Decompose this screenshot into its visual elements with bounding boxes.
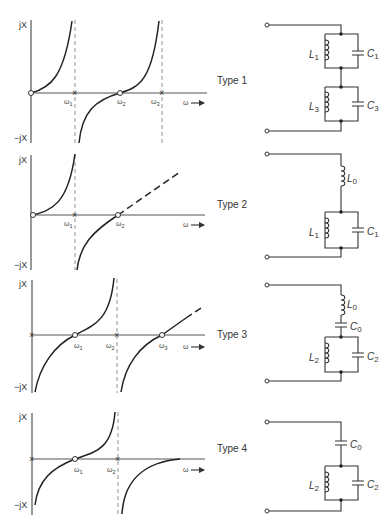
reactance-curve [77, 215, 118, 270]
l2-label: L2 [309, 352, 320, 365]
c3-label: C3 [367, 100, 379, 113]
circuit-type-3: L0 C0 L2 C2 [265, 283, 379, 383]
l2-label: L2 [309, 480, 320, 493]
y-pos-label: jX [18, 412, 27, 422]
pole-marker: × [29, 330, 34, 340]
pole-marker: × [72, 88, 77, 98]
pole-marker: × [29, 454, 34, 464]
zero-marker [118, 91, 123, 96]
zero-marker [73, 457, 78, 462]
omega-1-label: ω1 [64, 98, 73, 107]
reactance-curve [162, 318, 186, 335]
y-pos-label: jX [18, 279, 27, 289]
terminal-icon [265, 420, 269, 424]
inductor-l1-icon [325, 218, 329, 238]
reactance-curve [31, 21, 72, 93]
l0-label: L0 [347, 173, 358, 186]
type-2-label: Type 2 [217, 199, 247, 210]
type-3-label: Type 3 [217, 329, 247, 340]
circuit-type-4: C0 L2 C2 [265, 420, 379, 513]
capacitor-c2-icon [352, 353, 364, 357]
plot-type-2: jX −jX ω × ω1 ω2 Type 2 [14, 154, 247, 270]
type-4-label: Type 4 [217, 443, 247, 454]
y-pos-label: jX [18, 155, 27, 165]
c2-label: C2 [367, 479, 379, 492]
terminal-icon [265, 129, 269, 133]
omega-2-label: ω2 [117, 98, 126, 107]
omega-2-label: ω2 [116, 220, 125, 229]
c2-label: C2 [367, 351, 379, 364]
inductor-l2-icon [325, 472, 329, 492]
c0-label: C0 [350, 321, 362, 334]
capacitor-c1-icon [352, 51, 364, 55]
reactance-curve [121, 335, 162, 392]
capacitor-c0-icon [335, 323, 347, 327]
plot-type-4: jX −jX ω × × ω1 ω2 Type 4 [14, 412, 247, 516]
terminal-icon [265, 283, 269, 287]
reactance-curve [122, 459, 180, 514]
inductor-l2-icon [325, 343, 329, 363]
omega-3-label: ω3 [151, 98, 160, 107]
reactance-figure: jX −jX ω × × ω1 ω2 ω3 Type 1 jX −jX ω × … [0, 0, 389, 529]
plot-type-3: jX −jX ω × × ω1 ω2 ω3 Type 3 [14, 278, 247, 393]
pole-marker: × [159, 88, 164, 98]
circuit-type-2: L0 L1 C1 [265, 152, 379, 259]
c1-label: C1 [367, 48, 379, 61]
omega-2-label: ω2 [107, 466, 116, 475]
circuit-type-1: L1 C1 L3 C3 [265, 23, 379, 133]
asymptote-line [186, 306, 204, 318]
omega-axis-label: ω [183, 343, 189, 350]
y-pos-label: jX [18, 20, 27, 30]
pole-marker: × [115, 454, 120, 464]
reactance-curve [33, 154, 75, 215]
zero-marker [73, 333, 78, 338]
omega-1-label: ω1 [64, 220, 73, 229]
l3-label: L3 [309, 101, 320, 114]
pole-marker: × [72, 210, 77, 220]
c1-label: C1 [367, 226, 379, 239]
l1-label: L1 [309, 227, 320, 240]
y-neg-label: −jX [14, 260, 27, 270]
terminal-icon [265, 379, 269, 383]
capacitor-c1-icon [352, 228, 364, 232]
omega-axis-label: ω [183, 221, 189, 228]
terminal-icon [265, 152, 269, 156]
omega-3-label: ω3 [159, 342, 168, 351]
zero-marker [29, 91, 34, 96]
asymptote-line [118, 172, 180, 215]
omega-1-label: ω1 [74, 466, 83, 475]
omega-1-label: ω1 [74, 342, 83, 351]
reactance-curve [79, 21, 159, 143]
terminal-icon [265, 23, 269, 27]
c0-label: C0 [350, 439, 362, 452]
omega-axis-label: ω [183, 466, 189, 473]
zero-marker [160, 333, 165, 338]
omega-2-label: ω2 [106, 342, 115, 351]
inductor-l1-icon [325, 40, 329, 60]
y-neg-label: −jX [14, 382, 27, 392]
inductor-l0-icon [341, 295, 345, 315]
zero-marker [31, 213, 36, 218]
terminal-icon [265, 255, 269, 259]
zero-marker [116, 213, 121, 218]
inductor-l0-icon [341, 166, 345, 186]
capacitor-c2-icon [352, 481, 364, 485]
l1-label: L1 [309, 49, 320, 62]
omega-axis-label: ω [183, 99, 189, 106]
capacitor-c3-icon [352, 102, 364, 106]
terminal-icon [265, 509, 269, 513]
type-1-label: Type 1 [217, 75, 247, 86]
pole-marker: × [114, 330, 119, 340]
plot-type-1: jX −jX ω × × ω1 ω2 ω3 Type 1 [14, 20, 247, 143]
y-neg-label: −jX [14, 133, 27, 143]
inductor-l3-icon [325, 92, 329, 112]
y-neg-label: −jX [14, 500, 27, 510]
capacitor-c0-icon [335, 441, 347, 445]
l0-label: L0 [347, 299, 358, 312]
